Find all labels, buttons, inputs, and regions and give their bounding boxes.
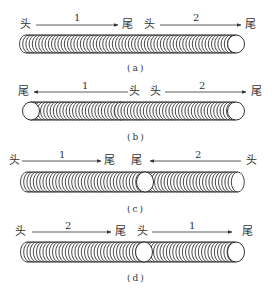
head-label: 头 (20, 19, 31, 31)
coil-end-circle (23, 102, 40, 120)
panel-caption: (c) (127, 204, 145, 214)
coil-rod-d (21, 242, 245, 262)
head-label: 头 (129, 86, 140, 98)
coil-rod-b (23, 102, 245, 120)
panel-caption: (d) (127, 273, 146, 283)
segment-number: 2 (199, 81, 205, 91)
tail-label: 尾 (18, 86, 29, 98)
arrows-layer (22, 25, 246, 232)
head-label: 头 (246, 155, 257, 167)
segment-number: 1 (59, 150, 65, 160)
tail-label: 尾 (122, 19, 133, 31)
coil-end-circle (228, 102, 245, 120)
tail-label: 尾 (104, 155, 115, 167)
coil-rod-c (21, 172, 245, 192)
segment-number: 1 (82, 81, 88, 91)
tail-label: 尾 (131, 155, 142, 167)
coil-end-circle (228, 35, 245, 53)
head-label: 头 (137, 226, 148, 238)
segment-number: 1 (189, 221, 195, 231)
tail-label: 尾 (251, 86, 262, 98)
tail-label: 尾 (242, 226, 253, 238)
panel-caption: (a) (127, 63, 145, 73)
segment-number: 2 (193, 13, 199, 23)
head-label: 头 (150, 86, 161, 98)
segment-number: 1 (74, 13, 80, 23)
head-label: 头 (15, 226, 26, 238)
panel-caption: (b) (127, 132, 146, 142)
segment-number: 2 (195, 150, 201, 160)
head-label: 头 (9, 155, 20, 167)
diagram-canvas (0, 0, 272, 295)
tail-label: 尾 (115, 226, 126, 238)
coil-end-circle (137, 172, 154, 192)
segment-number: 2 (65, 221, 71, 231)
coil-end-circle (136, 242, 153, 262)
head-label: 头 (144, 19, 155, 31)
coil-end-circle (228, 242, 245, 262)
coil-rod-a (20, 35, 245, 53)
tail-label: 尾 (245, 19, 256, 31)
